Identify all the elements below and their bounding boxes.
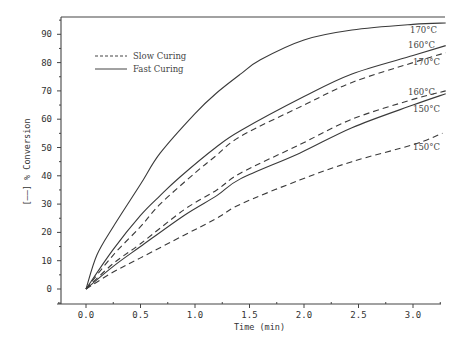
y-tick-label: 20 [41,227,52,237]
conversion-chart: 01020304050607080900.00.51.01.52.02.53.0… [0,0,467,342]
y-tick-label: 90 [41,29,52,39]
y-axis-title: [——] % Conversion [22,119,32,206]
x-tick-label: 1.0 [187,310,203,320]
y-tick-label: 0 [47,284,52,294]
y-tick-label: 50 [41,143,52,153]
y-tick-label: 60 [41,114,52,124]
y-tick-label: 10 [41,256,52,266]
curve-temperature-label: 160°C [408,87,435,97]
series-line [86,94,446,289]
x-tick-label: 0.0 [78,310,94,320]
series-line [86,91,446,289]
series-line [86,23,446,289]
x-tick-label: 0.5 [132,310,148,320]
curve-labels: 170°C160°C170°C160°C150°C150°C [408,25,440,152]
curve-temperature-label: 160°C [408,40,435,50]
y-tick-label: 30 [41,199,52,209]
legend-label-slow: Slow Curing [133,51,187,61]
x-tick-label: 3.0 [405,310,421,320]
curves [86,23,446,289]
x-tick-label: 2.0 [296,310,312,320]
y-tick-label: 80 [41,58,52,68]
curve-temperature-label: 170°C [413,57,440,67]
x-tick-label: 1.5 [241,310,257,320]
series-line [86,53,446,289]
series-line [86,133,442,289]
y-tick-label: 70 [41,86,52,96]
y-tick-label: 40 [41,171,52,181]
x-tick-label: 2.5 [350,310,366,320]
curve-temperature-label: 170°C [410,25,437,35]
curve-temperature-label: 150°C [413,104,440,114]
legend-label-fast: Fast Curing [133,64,184,74]
legend: Slow CuringFast Curing [95,51,187,74]
curve-temperature-label: 150°C [413,142,440,152]
x-axis-title: Time (min) [234,322,285,332]
